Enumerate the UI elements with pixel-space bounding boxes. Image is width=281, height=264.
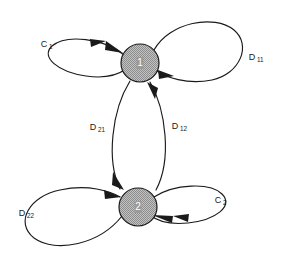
edge-self-loop-node2-left <box>25 188 122 246</box>
self-loop-node1-right-path <box>154 22 243 82</box>
edge-label-d21: D 21 <box>90 122 106 132</box>
edge-label-d12-subscript: 12 <box>180 125 188 132</box>
edge-label-d12: D 12 <box>172 121 188 131</box>
edge-label-d21-base: D <box>90 122 97 132</box>
edge-label-d11-subscript: 11 <box>257 56 264 63</box>
edge-label-c1-base: C <box>41 39 48 49</box>
edge-label-c2-base: C <box>215 195 222 205</box>
edge-arc-node2-to-node1 <box>147 82 165 190</box>
arc-node1-to-node2-arrowhead <box>112 172 124 190</box>
edge-label-d11-base: D <box>249 52 256 62</box>
edge-label-d12-base: D <box>172 121 179 131</box>
edge-self-loop-node1-right <box>154 22 243 82</box>
edge-label-c1: C 1 <box>41 39 53 49</box>
state-transition-diagram: 1 2 C 1 D 11 D 21 D 12 D 22 <box>0 0 281 264</box>
arc-node1-to-node2-path <box>112 81 130 189</box>
self-loop-node1-left-arrowhead-inner <box>105 41 123 53</box>
edge-label-d11: D 11 <box>249 52 264 62</box>
self-loop-node2-left-arrowhead <box>104 190 121 199</box>
arc-node2-to-node1-path <box>150 82 165 190</box>
edge-label-c2-subscript: 2 <box>223 199 227 206</box>
self-loop-node1-left-path <box>48 39 126 77</box>
edge-label-d22-base: D <box>19 208 26 218</box>
edge-self-loop-node1-left <box>48 39 126 77</box>
node-1-label: 1 <box>137 57 143 68</box>
edge-label-c2: C 2 <box>215 195 227 205</box>
node-1[interactable]: 1 <box>121 44 159 82</box>
state-diagram-canvas: 1 2 C 1 D 11 D 21 D 12 D 22 <box>0 0 281 264</box>
edge-label-c1-subscript: 1 <box>49 43 53 50</box>
node-2[interactable]: 2 <box>119 188 157 226</box>
edge-arc-node1-to-node2 <box>112 81 130 190</box>
node-2-label: 2 <box>135 201 141 212</box>
edge-label-d21-subscript: 21 <box>98 126 106 133</box>
edge-label-d22-subscript: 22 <box>27 212 35 219</box>
edge-label-d22: D 22 <box>19 208 35 218</box>
self-loop-node2-right-arrowhead-outer <box>173 214 189 222</box>
